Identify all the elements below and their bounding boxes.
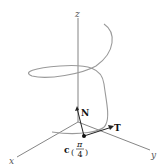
right-paren: ) [85,148,88,157]
left-paren: ( [71,148,74,157]
point-func-label: c [64,145,70,155]
y-axis-label: y [150,150,157,160]
tangent-vector [84,127,112,136]
arg-denominator: 4 [78,150,83,159]
z-axis-label: z [74,9,80,19]
helix-frenet-diagram: z x y N T c ( π 4 ) [0,0,163,168]
helix-curve [28,24,112,134]
arg-numerator: π [76,140,83,149]
point-c-pi-over-4 [82,134,86,138]
diagram-canvas: z x y N T c ( π 4 ) [0,0,163,168]
tangent-label: T [114,123,121,133]
normal-label: N [81,108,89,118]
x-axis-label: x [9,156,14,166]
